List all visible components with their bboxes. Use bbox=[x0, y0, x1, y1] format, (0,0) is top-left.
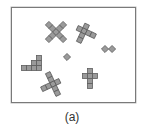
upright-cross-shape bbox=[83, 69, 98, 89]
tilted-cross-bottom-left-shape bbox=[36, 70, 65, 101]
double-diamond-shape bbox=[101, 42, 115, 56]
tilted-cross-top-right-shape bbox=[72, 21, 99, 48]
figure-caption: (a) bbox=[0, 110, 144, 124]
x-cross-shape bbox=[38, 14, 73, 49]
staircase-shape bbox=[22, 56, 42, 71]
single-diamond-shape bbox=[63, 53, 70, 60]
